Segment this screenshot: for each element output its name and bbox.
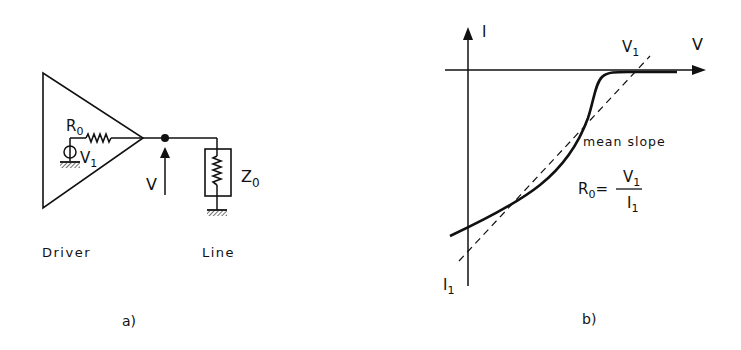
resistor-label: R0 [66, 117, 83, 138]
x-axis-arrow-icon [692, 65, 706, 75]
formula: R0= V1 I1 [578, 168, 642, 215]
figure-a-driver-line-circuit: R0 V1 V Z0 Driver Line a) [42, 73, 260, 329]
voltage-source-icon [60, 138, 80, 168]
line-label: Line [202, 245, 235, 260]
formula-numerator: V1 [623, 168, 640, 189]
iv-curve [450, 72, 677, 236]
source-label: V1 [80, 149, 97, 170]
ground-hatch-icon [60, 163, 80, 168]
figure-canvas: R0 V1 V Z0 Driver Line a) I [0, 0, 741, 350]
y-axis-arrow-icon [463, 27, 473, 40]
impedance-label: Z0 [241, 167, 260, 190]
voltage-arrow-icon [160, 147, 170, 195]
line-impedance-icon [205, 138, 231, 216]
output-node-dot [161, 134, 169, 142]
mean-slope-annotation: mean slope [583, 134, 666, 149]
caption-a: a) [122, 313, 136, 329]
y-axis-label: I [482, 23, 486, 41]
voltage-label: V [146, 175, 157, 194]
i1-label: I1 [443, 276, 454, 297]
formula-lhs: R0= [578, 180, 608, 201]
caption-b: b) [582, 311, 596, 327]
formula-denominator: I1 [627, 194, 638, 215]
figure-b-iv-characteristic: I V V1 I1 mean slope R0= V1 I1 b) [443, 23, 706, 327]
x-axis-label: V [692, 35, 703, 54]
driver-label: Driver [42, 245, 91, 260]
v1-label: V1 [622, 38, 639, 59]
driver-triangle [43, 73, 143, 208]
ground-hatch-icon [207, 211, 227, 216]
mean-slope-line [459, 56, 650, 261]
